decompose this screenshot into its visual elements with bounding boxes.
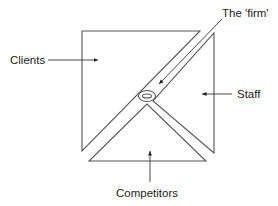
- staff-label: Staff: [237, 88, 261, 100]
- clients-triangle: [82, 31, 200, 151]
- staff-triangle: [153, 33, 214, 153]
- firm-ring-inner: [143, 94, 152, 98]
- firm-label: The 'firm': [222, 7, 269, 19]
- firm-arrow: [159, 19, 222, 84]
- firm-diagram: The 'firm' Clients Staff Competitors: [0, 0, 278, 206]
- firm-ring-outer: [139, 91, 156, 102]
- competitors-label: Competitors: [116, 187, 178, 199]
- clients-label: Clients: [10, 54, 45, 66]
- competitors-triangle: [89, 104, 206, 161]
